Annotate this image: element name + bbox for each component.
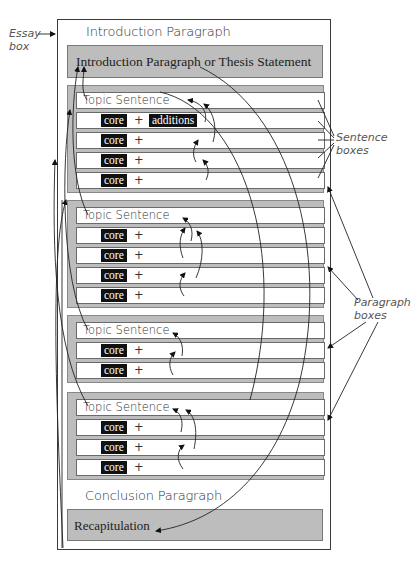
core-label: core — [101, 154, 127, 167]
annotation-line: boxes — [354, 309, 411, 322]
conclusion-label: Conclusion Paragraph — [85, 488, 222, 503]
core-label: core — [101, 114, 127, 127]
plus-sign: + — [134, 153, 144, 168]
paragraph-pointer-arrow — [328, 322, 366, 348]
topic-sentence-text: Topic Sentence — [83, 400, 170, 415]
plus-sign: + — [134, 133, 144, 148]
additions-label: additions — [149, 114, 197, 127]
sentence-box: core + — [76, 287, 325, 304]
plus-sign: + — [134, 268, 144, 283]
intro-thesis-text: Introduction Paragraph or Thesis Stateme… — [76, 54, 311, 70]
annotation-line: boxes — [336, 144, 388, 157]
sentence-box: core + — [76, 152, 325, 169]
plus-sign: + — [134, 460, 144, 475]
core-label: core — [101, 344, 127, 357]
recapitulation-box: Recapitulation — [67, 509, 323, 541]
plus-sign: + — [134, 420, 144, 435]
plus-sign: + — [134, 113, 144, 128]
intro-thesis-box: Introduction Paragraph or Thesis Stateme… — [67, 45, 323, 78]
plus-sign: + — [134, 228, 144, 243]
intro-label: Introduction Paragraph — [86, 24, 231, 39]
sentence-boxes-annotation: Sentence boxes — [336, 131, 388, 157]
sentence-box: core + — [76, 172, 325, 189]
core-label: core — [101, 461, 127, 474]
paragraph-pointer-arrow — [328, 322, 378, 420]
sentence-box: core + — [76, 267, 325, 284]
plus-sign: + — [134, 248, 144, 263]
topic-sentence-box: Topic Sentence — [76, 207, 325, 224]
topic-sentence-text: Topic Sentence — [83, 208, 170, 223]
essay-box-annotation: Essay box — [9, 27, 41, 53]
plus-sign: + — [134, 343, 144, 358]
paragraph-box-2: Topic Sentence core + core + core + core… — [67, 200, 324, 308]
sentence-box: core + — [76, 459, 325, 476]
sentence-box: core + — [76, 247, 325, 264]
sentence-box: core + — [76, 362, 325, 379]
sentence-box: core + additions — [76, 112, 325, 129]
annotation-line: Paragraph — [354, 296, 411, 309]
sentence-box: core + — [76, 419, 325, 436]
sentence-box: core + — [76, 439, 325, 456]
core-label: core — [101, 421, 127, 434]
core-label: core — [101, 174, 127, 187]
core-label: core — [101, 289, 127, 302]
recapitulation-text: Recapitulation — [74, 518, 150, 534]
plus-sign: + — [134, 288, 144, 303]
topic-sentence-box: Topic Sentence — [76, 322, 325, 339]
paragraph-box-1: Topic Sentence core + additions core + c… — [67, 85, 324, 193]
topic-sentence-box: Topic Sentence — [76, 399, 325, 416]
paragraph-boxes-annotation: Paragraph boxes — [354, 296, 411, 322]
plus-sign: + — [134, 440, 144, 455]
sentence-box: core + — [76, 227, 325, 244]
sentence-box: core + — [76, 342, 325, 359]
annotation-line: box — [9, 40, 41, 53]
core-label: core — [101, 249, 127, 262]
plus-sign: + — [134, 363, 144, 378]
core-label: core — [101, 229, 127, 242]
sentence-box: core + — [76, 132, 325, 149]
core-label: core — [101, 134, 127, 147]
core-label: core — [101, 269, 127, 282]
topic-sentence-text: Topic Sentence — [83, 93, 170, 108]
annotation-line: Essay — [9, 27, 41, 40]
paragraph-pointer-arrow — [328, 187, 373, 298]
core-label: core — [101, 441, 127, 454]
annotation-line: Sentence — [336, 131, 388, 144]
paragraph-box-4: Topic Sentence core + core + core + — [67, 392, 324, 480]
topic-sentence-box: Topic Sentence — [76, 92, 325, 109]
topic-sentence-text: Topic Sentence — [83, 323, 170, 338]
plus-sign: + — [134, 173, 144, 188]
paragraph-box-3: Topic Sentence core + core + — [67, 315, 324, 383]
core-label: core — [101, 364, 127, 377]
